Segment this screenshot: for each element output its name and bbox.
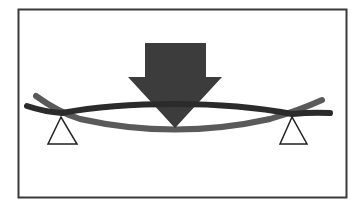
beam-bending-diagram: [0, 0, 364, 205]
